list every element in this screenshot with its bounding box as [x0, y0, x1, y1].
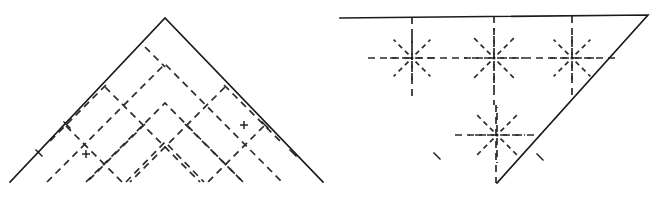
figure-sheet	[0, 0, 665, 197]
star-left	[386, 32, 438, 84]
cross-left	[82, 150, 90, 158]
left-crease-pattern	[0, 0, 333, 197]
star-center	[464, 28, 524, 88]
star-bottom-center	[496, 134, 499, 137]
diag-r-5	[224, 85, 282, 143]
star-bottom-ray-7	[501, 115, 517, 131]
right-crease-pattern	[333, 0, 665, 197]
chevron-outer	[47, 64, 282, 182]
star-bottom	[469, 107, 525, 163]
star-left-center	[411, 57, 414, 60]
diag-l-4	[48, 85, 106, 143]
star-right	[546, 32, 598, 84]
diag-l-2	[130, 87, 225, 182]
star-right-ray-1	[576, 62, 591, 77]
star-center-ray-7	[498, 37, 516, 55]
tick-bottom-right-edge	[536, 153, 543, 160]
diag-r-2	[105, 87, 200, 182]
star-bottom-ray-3	[477, 139, 493, 155]
star-bottom-ray-5	[477, 115, 493, 131]
star-left-ray-7	[416, 40, 431, 55]
star-right-center	[571, 57, 574, 60]
star-left-ray-3	[394, 62, 409, 77]
star-center-center	[493, 57, 496, 60]
star-right-ray-3	[554, 62, 569, 77]
figure-right-panel	[333, 0, 665, 197]
cross-right	[240, 121, 248, 129]
diag-r-3	[145, 47, 165, 67]
star-center-ray-3	[473, 62, 491, 80]
star-center-ray-5	[473, 37, 491, 55]
triangle-outline	[10, 18, 323, 182]
tick-bottom-left-edge	[433, 152, 440, 159]
star-right-ray-5	[554, 40, 569, 55]
figure-left-panel	[0, 0, 333, 197]
star-left-ray-1	[416, 62, 431, 77]
star-right-ray-7	[576, 40, 591, 55]
star-bottom-ray-1	[501, 139, 517, 155]
star-center-ray-1	[498, 62, 516, 80]
star-left-ray-5	[394, 40, 409, 55]
